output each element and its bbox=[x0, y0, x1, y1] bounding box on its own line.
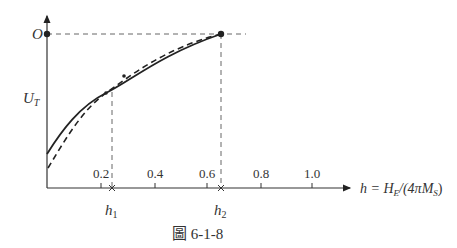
tick-label-0-4: 0.4 bbox=[147, 166, 164, 181]
x-axis-label: h = HE/(4πMS) bbox=[360, 181, 443, 198]
end-dot bbox=[218, 31, 224, 37]
origin-dot bbox=[44, 31, 50, 37]
origin-label: O bbox=[32, 26, 43, 42]
intersection-dot-2 bbox=[122, 74, 126, 78]
intersection-dot-1 bbox=[104, 91, 108, 95]
solid-curve bbox=[47, 34, 221, 154]
tick-label-0-8: 0.8 bbox=[253, 166, 269, 181]
dashed-curve bbox=[48, 34, 221, 168]
x-ticks bbox=[101, 183, 312, 188]
tick-label-0-6: 0.6 bbox=[199, 166, 216, 181]
tick-label-1-0: 1.0 bbox=[304, 166, 320, 181]
h2-label: h2 bbox=[214, 202, 227, 220]
tick-label-0-2: 0.2 bbox=[93, 166, 109, 181]
h1-label: h1 bbox=[105, 202, 118, 220]
figure-canvas: 0.2 0.4 0.6 0.8 1.0 O UT h1 h2 h = HE/(4… bbox=[0, 0, 457, 248]
figure-caption: 圖 6-1-8 bbox=[172, 226, 223, 242]
y-axis-label: UT bbox=[23, 90, 41, 108]
